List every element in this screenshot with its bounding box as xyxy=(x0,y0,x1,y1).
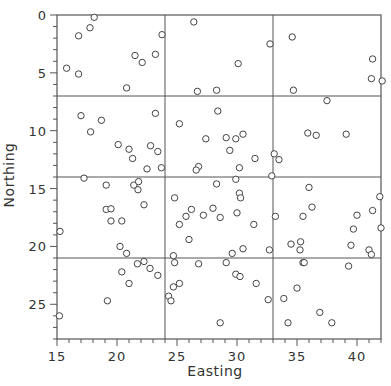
data-point-marker xyxy=(87,129,93,135)
data-point-marker xyxy=(269,173,275,179)
data-point-marker xyxy=(289,34,295,40)
data-point-marker xyxy=(123,250,129,256)
grid-lines xyxy=(57,15,381,339)
y-axis-ticks: 0510152025 xyxy=(28,8,57,339)
y-axis-title: Northing xyxy=(1,143,17,208)
data-point-marker xyxy=(288,241,294,247)
data-point-marker xyxy=(155,148,161,154)
data-point-marker xyxy=(129,155,135,161)
data-point-marker xyxy=(350,226,356,232)
x-tick-label: 30 xyxy=(228,349,247,364)
x-tick-label: 40 xyxy=(348,349,367,364)
data-point-marker xyxy=(379,78,385,84)
data-point-marker xyxy=(194,88,200,94)
data-point-marker xyxy=(368,251,374,257)
data-point-marker xyxy=(223,134,229,140)
data-point-marker xyxy=(81,175,87,181)
data-point-marker xyxy=(98,117,104,123)
data-point-marker xyxy=(91,14,97,20)
data-point-marker xyxy=(119,218,125,224)
data-point-marker xyxy=(229,250,235,256)
data-point-marker xyxy=(294,285,300,291)
data-point-marker xyxy=(227,147,233,153)
x-axis-ticks: 152025303540 xyxy=(48,339,381,364)
data-point-marker xyxy=(63,65,69,71)
data-point-marker xyxy=(78,112,84,118)
data-point-marker xyxy=(213,87,219,93)
data-point-marker xyxy=(253,280,259,286)
y-tick-label: 0 xyxy=(38,8,47,23)
data-point-marker xyxy=(223,259,229,265)
data-point-marker xyxy=(170,284,176,290)
data-point-marker xyxy=(159,31,165,37)
data-point-marker xyxy=(186,236,192,242)
data-point-marker xyxy=(217,320,223,326)
data-point-marker xyxy=(354,212,360,218)
data-point-marker xyxy=(240,131,246,137)
data-point-marker xyxy=(329,320,335,326)
data-point-marker xyxy=(266,247,272,253)
data-point-marker xyxy=(56,313,62,319)
data-point-marker xyxy=(139,59,145,65)
data-point-marker xyxy=(265,296,271,302)
data-point-marker xyxy=(236,165,242,171)
data-point-marker xyxy=(252,155,258,161)
data-point-marker xyxy=(301,259,307,265)
data-point-marker xyxy=(368,75,374,81)
data-point-marker xyxy=(313,132,319,138)
data-point-marker xyxy=(195,261,201,267)
y-tick-label: 15 xyxy=(28,182,47,197)
data-point-marker xyxy=(126,280,132,286)
data-point-marker xyxy=(176,121,182,127)
data-point-marker xyxy=(103,182,109,188)
data-point-marker xyxy=(251,221,257,227)
data-point-marker xyxy=(147,143,153,149)
data-point-marker xyxy=(309,204,315,210)
data-point-marker xyxy=(170,252,176,258)
data-point-marker xyxy=(369,56,375,62)
data-point-marker xyxy=(134,261,140,267)
data-point-marker xyxy=(285,320,291,326)
x-tick-label: 15 xyxy=(48,349,67,364)
data-point-marker xyxy=(117,243,123,249)
data-point-marker xyxy=(87,25,93,31)
data-point-marker xyxy=(126,146,132,152)
data-point-marker xyxy=(171,195,177,201)
data-point-marker xyxy=(119,269,125,275)
data-point-marker xyxy=(135,178,141,184)
data-point-marker xyxy=(176,280,182,286)
data-point-marker xyxy=(171,259,177,265)
x-tick-label: 25 xyxy=(168,349,187,364)
data-point-marker xyxy=(290,87,296,93)
data-point-marker xyxy=(135,187,141,193)
data-point-marker xyxy=(104,298,110,304)
data-point-marker xyxy=(188,206,194,212)
data-point-marker xyxy=(271,151,277,157)
data-point-marker xyxy=(108,218,114,224)
data-point-marker xyxy=(234,210,240,216)
data-point-marker xyxy=(115,141,121,147)
data-point-marker xyxy=(377,193,383,199)
data-point-marker xyxy=(155,272,161,278)
data-point-marker xyxy=(237,195,243,201)
data-point-marker xyxy=(305,130,311,136)
data-point-marker xyxy=(152,110,158,116)
data-point-marker xyxy=(57,228,63,234)
data-point-marker xyxy=(272,213,278,219)
data-point-marker xyxy=(378,225,384,231)
data-point-marker xyxy=(343,131,349,137)
x-tick-label: 20 xyxy=(108,349,127,364)
y-tick-label: 10 xyxy=(28,124,47,139)
data-point-marker xyxy=(297,247,303,253)
data-point-marker xyxy=(132,52,138,58)
data-points xyxy=(56,14,385,326)
data-point-marker xyxy=(324,97,330,103)
data-point-marker xyxy=(144,166,150,172)
data-point-marker xyxy=(317,309,323,315)
data-point-marker xyxy=(215,108,221,114)
data-point-marker xyxy=(369,207,375,213)
data-point-marker xyxy=(240,246,246,252)
data-point-marker xyxy=(158,165,164,171)
data-point-marker xyxy=(152,51,158,57)
x-tick-label: 35 xyxy=(288,349,307,364)
